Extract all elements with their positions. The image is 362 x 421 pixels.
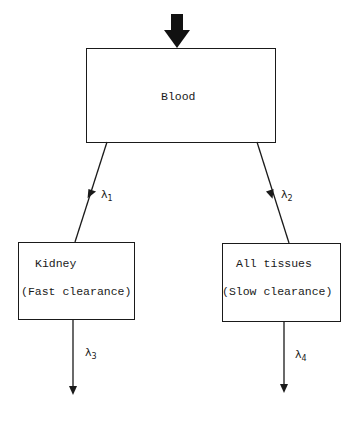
rate-label-4: λ4 [295, 348, 307, 363]
rate-subscript: 4 [302, 354, 307, 363]
kidney-label: Kidney [35, 257, 76, 270]
rate-label-3: λ3 [85, 346, 97, 361]
input-arrow-icon [164, 14, 190, 48]
blood-label: Blood [161, 90, 196, 103]
rate-label-2: λ2 [281, 188, 293, 203]
rate-subscript: 3 [92, 352, 97, 361]
rate-subscript: 1 [108, 194, 113, 203]
tissues-label: All tissues [236, 257, 312, 270]
rate-label-1: λ1 [101, 188, 113, 203]
kidney-compartment [18, 242, 135, 320]
edge-kidney-out [69, 319, 77, 395]
edge-tissues-out [280, 321, 288, 393]
kidney-sublabel: (Fast clearance) [21, 285, 131, 298]
rate-subscript: 2 [288, 194, 293, 203]
tissues-compartment [222, 243, 341, 322]
tissues-sublabel: (Slow clearance) [222, 285, 332, 298]
